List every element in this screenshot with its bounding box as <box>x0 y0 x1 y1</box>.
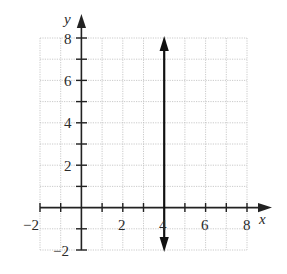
x-tick-label-2: 2 <box>118 217 126 233</box>
y-tick-label-8: 8 <box>64 31 72 47</box>
x-tick-label-8: 8 <box>243 217 251 233</box>
coordinate-plane: y x 8 6 4 2 −2 −2 2 4 6 8 <box>0 0 287 274</box>
y-tick-label-2: 2 <box>64 158 72 174</box>
x-tick-label-4: 4 <box>159 217 167 233</box>
y-axis-arrow-icon <box>77 14 86 28</box>
y-tick-label-neg2: −2 <box>53 243 69 259</box>
y-axis-label: y <box>62 11 71 27</box>
x-tick-label-6: 6 <box>201 217 209 233</box>
y-tick-label-6: 6 <box>64 73 72 89</box>
x-axis-label: x <box>258 211 266 227</box>
y-tick-label-4: 4 <box>64 115 72 131</box>
grid <box>40 38 247 250</box>
x-tick-label-neg2: −2 <box>23 217 39 233</box>
